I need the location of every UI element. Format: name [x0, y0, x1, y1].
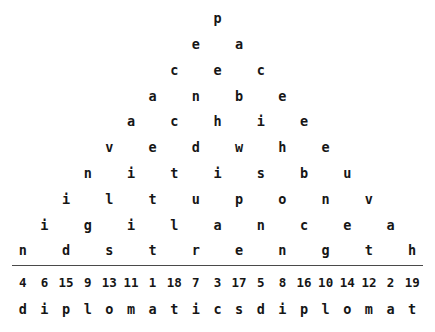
pyramid-letter: e — [272, 90, 294, 104]
pyramid-letter: n — [272, 244, 294, 258]
pyramid-letter: i — [207, 167, 229, 181]
pyramid-letter: v — [358, 193, 380, 207]
pyramid-letter: c — [293, 219, 315, 233]
pyramid-letter: e — [207, 64, 229, 78]
pyramid-letter: e — [228, 244, 250, 258]
pyramid-letter: d — [55, 244, 77, 258]
pyramid-letter: c — [250, 64, 272, 78]
index-number: 12 — [358, 277, 380, 290]
answer-letter: t — [163, 303, 185, 317]
pyramid-row: p — [12, 6, 423, 32]
pyramid-letter: t — [163, 167, 185, 181]
answer-letter: s — [228, 303, 250, 317]
answer-letter: o — [99, 303, 121, 317]
pyramid-letter: r — [185, 244, 207, 258]
pyramid-letter: t — [358, 244, 380, 258]
pyramid-grid: p e a c e c a n b e a c h i e v e d w h … — [12, 6, 423, 264]
pyramid-letter: n — [315, 193, 337, 207]
answer-letter: o — [336, 303, 358, 317]
pyramid-letter: e — [315, 141, 337, 155]
pyramid-letter: e — [336, 219, 358, 233]
answer-letter: m — [358, 303, 380, 317]
index-number: 14 — [336, 277, 358, 290]
index-number: 8 — [272, 277, 294, 290]
pyramid-row: e a — [12, 32, 423, 58]
pyramid-letter: o — [272, 193, 294, 207]
letter-pyramid-puzzle: p e a c e c a n b e a c h i e v e d w h … — [0, 0, 435, 332]
pyramid-row: a c h i e — [12, 109, 423, 135]
pyramid-letter: b — [228, 90, 250, 104]
index-number: 5 — [250, 277, 272, 290]
index-number: 4 — [12, 277, 34, 290]
answer-letter: l — [315, 303, 337, 317]
pyramid-letter: l — [99, 193, 121, 207]
pyramid-letter: i — [120, 219, 142, 233]
pyramid-letter: g — [77, 219, 99, 233]
answer-letter: a — [142, 303, 164, 317]
answer-letter: i — [185, 303, 207, 317]
pyramid-letter: g — [315, 244, 337, 258]
pyramid-letter: s — [99, 244, 121, 258]
index-number: 1 — [142, 277, 164, 290]
index-number: 13 — [99, 277, 121, 290]
index-numbers-row: 46159131111873175816101412219 — [12, 272, 423, 294]
pyramid-letter: s — [250, 167, 272, 181]
pyramid-letter: e — [185, 38, 207, 52]
pyramid-letter: n — [77, 167, 99, 181]
pyramid-letter: t — [142, 193, 164, 207]
index-number: 2 — [380, 277, 402, 290]
pyramid-row: i l t u p o n v — [12, 187, 423, 213]
pyramid-letter: u — [336, 167, 358, 181]
pyramid-letter: t — [142, 244, 164, 258]
pyramid-row: n d s t r e n g t h — [12, 238, 423, 264]
index-number: 6 — [34, 277, 56, 290]
pyramid-letter: n — [12, 244, 34, 258]
pyramid-letter: a — [142, 90, 164, 104]
answer-letter: l — [77, 303, 99, 317]
pyramid-letter: h — [272, 141, 294, 155]
answer-letters-row: diplomaticsdiplomat — [12, 298, 423, 322]
answer-letter: p — [293, 303, 315, 317]
pyramid-letter: b — [293, 167, 315, 181]
index-number: 9 — [77, 277, 99, 290]
index-number: 17 — [228, 277, 250, 290]
index-number: 16 — [293, 277, 315, 290]
index-number: 18 — [163, 277, 185, 290]
answer-letter: i — [34, 303, 56, 317]
answer-letter: t — [401, 303, 423, 317]
pyramid-letter: h — [401, 244, 423, 258]
pyramid-letter: c — [163, 115, 185, 129]
pyramid-letter: e — [293, 115, 315, 129]
pyramid-letter: h — [207, 115, 229, 129]
pyramid-letter: p — [228, 193, 250, 207]
pyramid-letter: u — [185, 193, 207, 207]
pyramid-letter: a — [380, 219, 402, 233]
pyramid-letter: i — [34, 219, 56, 233]
answer-letter: c — [207, 303, 229, 317]
horizontal-divider — [12, 265, 423, 266]
answer-letter: d — [12, 303, 34, 317]
answer-letter: d — [250, 303, 272, 317]
index-number: 7 — [185, 277, 207, 290]
pyramid-row: i g i l a n c e a — [12, 212, 423, 238]
pyramid-letter: w — [228, 141, 250, 155]
pyramid-letter: n — [250, 219, 272, 233]
pyramid-letter: i — [120, 167, 142, 181]
answer-letter: p — [55, 303, 77, 317]
index-number: 15 — [55, 277, 77, 290]
pyramid-letter: d — [185, 141, 207, 155]
index-number: 10 — [315, 277, 337, 290]
pyramid-letter: a — [228, 38, 250, 52]
pyramid-letter: l — [163, 219, 185, 233]
index-number: 19 — [401, 277, 423, 290]
pyramid-row: n i t i s b u — [12, 161, 423, 187]
pyramid-letter: a — [207, 219, 229, 233]
pyramid-letter: i — [250, 115, 272, 129]
pyramid-letter: e — [142, 141, 164, 155]
pyramid-row: c e c — [12, 58, 423, 84]
pyramid-letter: c — [163, 64, 185, 78]
answer-letter: m — [120, 303, 142, 317]
index-number: 3 — [207, 277, 229, 290]
pyramid-letter: p — [207, 12, 229, 26]
pyramid-letter: i — [55, 193, 77, 207]
